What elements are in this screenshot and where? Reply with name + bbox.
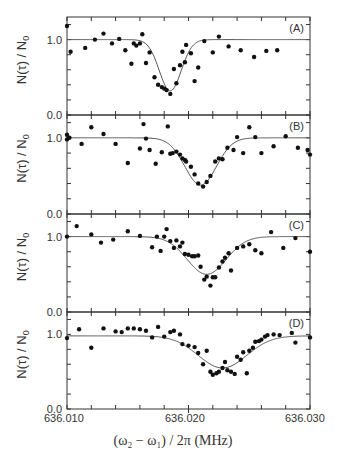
- data-point: [168, 92, 172, 96]
- data-point: [275, 48, 279, 52]
- data-point: [192, 345, 196, 349]
- data-point: [217, 34, 221, 38]
- data-point: [189, 51, 193, 55]
- data-point: [65, 24, 69, 28]
- data-point: [259, 251, 263, 255]
- y-tick-0.0: 0.0: [47, 306, 62, 318]
- data-point: [277, 333, 281, 337]
- data-point: [213, 159, 217, 163]
- data-point: [252, 55, 256, 59]
- data-point: [89, 346, 93, 350]
- data-point: [174, 238, 178, 242]
- data-point: [178, 152, 182, 156]
- panel-a: 1.00.0(A)N(τ) / N0: [14, 17, 310, 121]
- data-point: [231, 148, 235, 152]
- data-point: [253, 340, 257, 344]
- x-tick-636.020: 636.020: [165, 412, 205, 424]
- data-point: [164, 88, 168, 92]
- data-point: [172, 67, 176, 71]
- data-point: [184, 43, 188, 47]
- panel-c: 1.00.0(C)N(τ) / N0: [14, 214, 312, 318]
- data-point: [196, 351, 200, 355]
- data-point: [138, 234, 142, 238]
- x-tick-636.030: 636.030: [285, 412, 325, 424]
- data-point: [241, 350, 245, 354]
- panel-b: 1.00.0(B)N(τ) / N0: [14, 115, 312, 220]
- data-point: [196, 253, 200, 257]
- data-point: [196, 65, 200, 69]
- data-point: [67, 136, 71, 140]
- x-tick-636.010: 636.010: [44, 412, 84, 424]
- data-point: [284, 134, 288, 138]
- data-point: [132, 326, 136, 330]
- data-point: [154, 162, 158, 166]
- data-point: [251, 346, 255, 350]
- data-point: [123, 48, 127, 52]
- data-point: [101, 31, 105, 35]
- data-point: [101, 326, 105, 330]
- y-axis-label: N(τ) / N0: [14, 134, 31, 182]
- data-point: [189, 165, 193, 169]
- data-point: [172, 329, 176, 333]
- data-point: [296, 146, 300, 150]
- fit-curve: [67, 40, 310, 91]
- y-axis-label: N(τ) / N0: [14, 330, 31, 378]
- data-point: [129, 62, 133, 66]
- plot-frame: [67, 115, 310, 214]
- data-point: [152, 75, 156, 79]
- data-point: [172, 246, 176, 250]
- data-point: [184, 159, 188, 163]
- data-point: [226, 44, 230, 48]
- data-point: [126, 161, 130, 165]
- data-point: [213, 275, 217, 279]
- data-point: [158, 249, 162, 253]
- data-point: [183, 60, 187, 64]
- data-point: [150, 245, 154, 249]
- data-point: [113, 142, 117, 146]
- data-point: [138, 146, 142, 150]
- data-point: [180, 342, 184, 346]
- data-point: [144, 329, 148, 333]
- data-point: [138, 327, 142, 331]
- plot-frame: [67, 214, 310, 312]
- fit-curve: [67, 336, 310, 368]
- data-point: [150, 335, 154, 339]
- data-point: [223, 360, 227, 364]
- data-point: [259, 151, 263, 155]
- data-point: [147, 148, 151, 152]
- data-point: [217, 370, 221, 374]
- data-point: [75, 224, 79, 228]
- data-point: [208, 174, 212, 178]
- data-point: [77, 327, 81, 331]
- data-point: [196, 181, 200, 185]
- x-axis-label: (ω₂ − ω₁) / 2π (MHz): [0, 433, 346, 449]
- data-point: [162, 334, 166, 338]
- data-point: [264, 49, 268, 53]
- panel-label: (C): [289, 219, 304, 231]
- data-point: [202, 39, 206, 43]
- panel-label: (A): [289, 22, 304, 34]
- data-point: [68, 50, 72, 54]
- data-point: [140, 32, 144, 36]
- data-point: [180, 50, 184, 54]
- data-point: [247, 242, 251, 246]
- data-point: [89, 232, 93, 236]
- data-point: [259, 337, 263, 341]
- y-tick-1.0: 1.0: [47, 132, 62, 144]
- data-point: [144, 61, 148, 65]
- data-point: [223, 256, 227, 260]
- y-tick-1.0: 1.0: [47, 34, 62, 46]
- data-point: [205, 274, 209, 278]
- data-point: [99, 240, 103, 244]
- data-point: [226, 251, 230, 255]
- data-point: [156, 83, 160, 87]
- panel-label: (B): [289, 120, 304, 132]
- data-point: [117, 37, 121, 41]
- data-point: [253, 135, 257, 139]
- data-point: [225, 146, 229, 150]
- data-point: [65, 234, 69, 238]
- data-point: [247, 125, 251, 129]
- data-point: [192, 172, 196, 176]
- data-point: [198, 265, 202, 269]
- y-tick-0.0: 0.0: [47, 109, 62, 121]
